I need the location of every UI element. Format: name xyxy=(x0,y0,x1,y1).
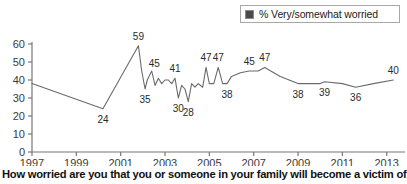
y-axis: 0102030405060 xyxy=(13,38,32,158)
y-tick-label: 30 xyxy=(13,92,25,104)
x-tick-label: 2011 xyxy=(331,157,355,166)
data-point-label: 47 xyxy=(259,52,271,63)
x-tick-label: 2007 xyxy=(241,157,265,166)
data-point-label: 39 xyxy=(319,87,331,98)
data-point-label: 28 xyxy=(183,107,195,118)
line-chart-plot: 0102030405060 19971999200120032005200720… xyxy=(0,0,407,166)
x-tick-label: 2005 xyxy=(197,157,221,166)
x-tick-label: 2001 xyxy=(108,157,132,166)
x-tick-label: 2003 xyxy=(153,157,177,166)
y-tick-label: 20 xyxy=(13,110,25,122)
data-point-label: 40 xyxy=(388,65,400,76)
y-tick-label: 10 xyxy=(13,128,25,140)
data-point-label: 41 xyxy=(169,63,181,74)
x-tick-label: 2009 xyxy=(286,157,310,166)
data-point-label: 36 xyxy=(350,92,362,103)
y-tick-label: 60 xyxy=(13,38,25,50)
data-point-label: 38 xyxy=(292,89,304,100)
chart-container: % Very/somewhat worried 0102030405060 19… xyxy=(0,0,407,184)
data-point-label: 38 xyxy=(222,89,234,100)
x-tick-label: 1997 xyxy=(20,157,44,166)
data-point-label: 35 xyxy=(139,94,151,105)
y-tick-label: 50 xyxy=(13,56,25,68)
data-point-label: 59 xyxy=(133,31,145,42)
x-tick-label: 1999 xyxy=(64,157,88,166)
data-point-label: 45 xyxy=(244,56,256,67)
x-axis: 199719992001200320052007200920112013 xyxy=(20,152,405,166)
y-tick-label: 40 xyxy=(13,74,25,86)
x-tick-label: 2013 xyxy=(374,157,398,166)
chart-caption: How worried are you that you or someone … xyxy=(2,167,407,181)
data-point-label: 45 xyxy=(149,58,161,69)
data-point-label: 47 xyxy=(213,52,225,63)
data-point-label: 47 xyxy=(200,52,212,63)
data-point-label: 24 xyxy=(97,114,109,125)
